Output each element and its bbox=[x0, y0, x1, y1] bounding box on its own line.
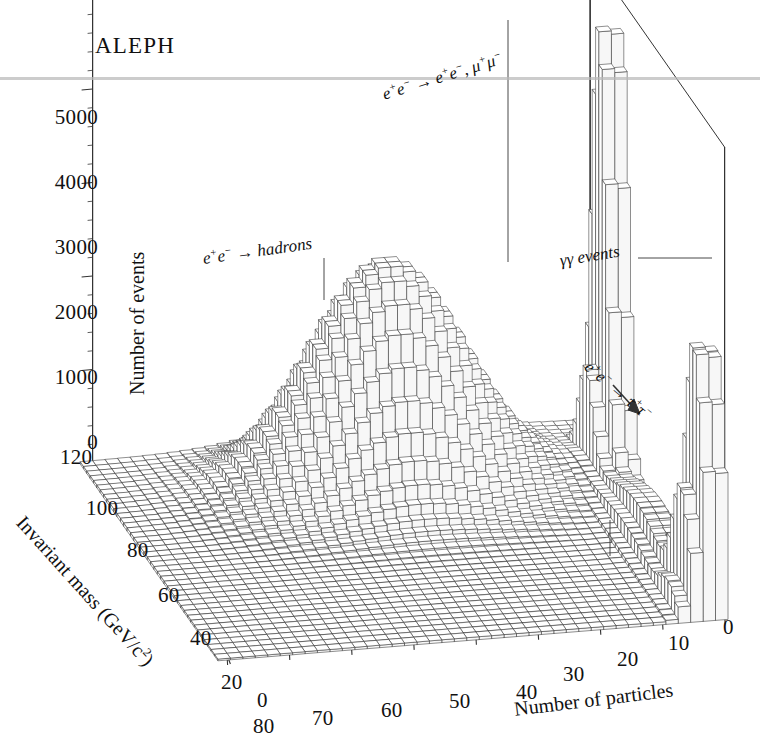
particles-tick-60: 60 bbox=[381, 700, 403, 721]
lego-plot-svg bbox=[0, 0, 760, 753]
particles-tick-0: 0 bbox=[723, 617, 734, 638]
events-tick-1000: 1000 bbox=[6, 367, 98, 388]
particles-tick-70: 70 bbox=[312, 708, 334, 729]
events-tick-2000: 2000 bbox=[6, 302, 98, 323]
chart-canvas: ALEPH 5000 4000 3000 2000 1000 0 Number … bbox=[0, 0, 760, 753]
particles-tick-80: 80 bbox=[253, 716, 275, 737]
mass-tick-40: 40 bbox=[190, 628, 212, 649]
events-tick-3000: 3000 bbox=[6, 237, 98, 258]
mass-tick-0: 0 bbox=[257, 690, 268, 711]
particles-tick-50: 50 bbox=[449, 691, 471, 712]
events-tick-4000: 4000 bbox=[6, 172, 98, 193]
particles-tick-30: 30 bbox=[563, 664, 585, 685]
mass-tick-20: 20 bbox=[221, 672, 243, 693]
mass-tick-60: 60 bbox=[158, 585, 180, 606]
experiment-label: ALEPH bbox=[95, 34, 175, 57]
particles-tick-20: 20 bbox=[617, 649, 639, 670]
mass-tick-80: 80 bbox=[127, 540, 149, 561]
mass-tick-100: 100 bbox=[86, 498, 118, 519]
events-tick-5000: 5000 bbox=[6, 107, 98, 128]
mass-tick-120: 120 bbox=[60, 447, 92, 468]
particles-tick-10: 10 bbox=[668, 633, 690, 654]
events-axis-title: Number of events bbox=[127, 252, 147, 395]
